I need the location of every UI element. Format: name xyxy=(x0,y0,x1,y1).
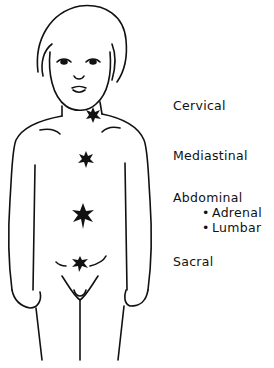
label-abdominal: Abdominal xyxy=(173,191,242,205)
sacral-marker xyxy=(72,256,88,272)
abdominal-marker xyxy=(72,203,94,229)
label-adrenal: Adrenal xyxy=(212,206,262,220)
child-figure-illustration xyxy=(0,0,274,368)
right-hand xyxy=(125,290,148,306)
left-hand xyxy=(12,290,41,308)
tumor-site-markers xyxy=(72,107,101,272)
torso-outline xyxy=(9,116,62,290)
label-mediastinal: Mediastinal xyxy=(173,149,248,163)
label-cervical: Cervical xyxy=(173,99,226,113)
bullet-adrenal: • xyxy=(202,206,209,220)
bullet-lumbar: • xyxy=(202,221,209,235)
legs-outline xyxy=(36,308,42,360)
mediastinal-marker xyxy=(78,151,94,168)
hair-outline xyxy=(37,6,126,82)
label-lumbar: Lumbar xyxy=(212,221,261,235)
label-sacral: Sacral xyxy=(173,255,214,269)
